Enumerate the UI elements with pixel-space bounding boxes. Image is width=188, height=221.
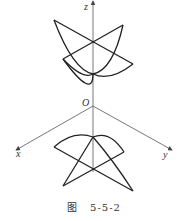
y-axis-label: y	[162, 149, 168, 160]
figure-caption: 图5-5-2	[0, 199, 188, 214]
y-axis	[93, 106, 172, 150]
upper-surface	[54, 20, 133, 84]
origin-label: O	[82, 97, 89, 108]
x-axis-label: x	[15, 148, 21, 159]
caption-prefix: 图	[67, 202, 78, 213]
lower-surface	[54, 135, 133, 191]
saddle-surface-diagram: z O x y	[0, 0, 188, 221]
x-axis	[16, 106, 93, 150]
caption-number: 5-5-2	[90, 202, 121, 213]
z-axis-label: z	[83, 1, 88, 12]
